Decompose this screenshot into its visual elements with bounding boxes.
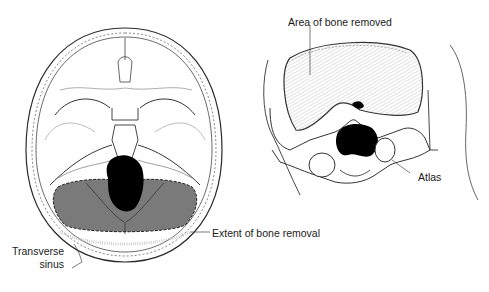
skull-base-illustration (26, 28, 222, 268)
transverse-sinus-label-line2: sinus (12, 258, 64, 270)
atlas-structure (375, 138, 395, 162)
diagram-canvas (0, 0, 489, 292)
foramen-magnum-posterior (336, 124, 378, 157)
occiput-atlas-illustration (264, 25, 478, 200)
extent-of-bone-removal-label: Extent of bone removal (212, 227, 320, 239)
area-of-bone-removed-region (284, 42, 422, 130)
transverse-sinus-label-line1: Transverse (12, 245, 64, 257)
atlas-label: Atlas (418, 171, 441, 183)
area-of-bone-removed-label: Area of bone removed (288, 16, 392, 28)
